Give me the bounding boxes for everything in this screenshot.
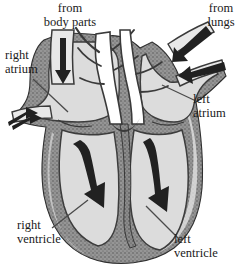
label-left-atrium: left atrium [193, 93, 243, 120]
label-right-atrium: right atrium [5, 49, 57, 76]
label-from-lungs: from lungs [199, 2, 243, 29]
label-right-ventricle: right ventricle [17, 219, 91, 246]
label-left-ventricle: left ventricle [174, 233, 240, 260]
label-from-body-parts: from body parts [28, 2, 112, 29]
heart-diagram-figure: from body parts from lungs right atrium … [0, 0, 244, 269]
